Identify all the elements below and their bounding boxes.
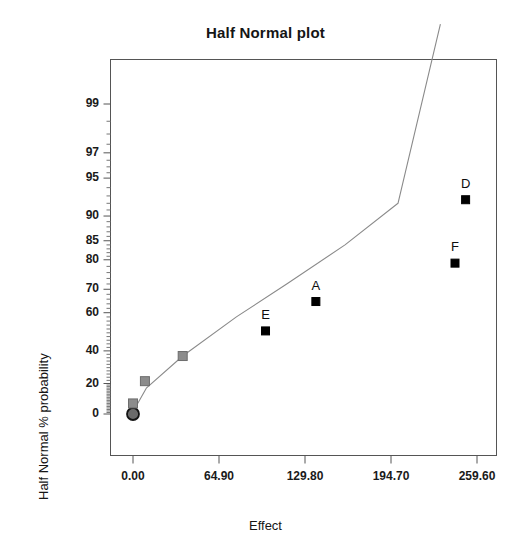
- data-point-label: E: [246, 307, 286, 322]
- axis-frame: [111, 60, 497, 456]
- y-tick-label: 97: [55, 145, 99, 159]
- data-point-square: [178, 352, 187, 361]
- x-tick-label: 259.60: [437, 469, 517, 483]
- x-tick-label: 194.70: [351, 469, 431, 483]
- y-tick-label: 90: [55, 208, 99, 222]
- data-point-label: A: [296, 278, 336, 293]
- data-point-label: F: [435, 239, 475, 254]
- y-tick-label: 95: [55, 170, 99, 184]
- x-tick-label: 129.80: [265, 469, 345, 483]
- y-tick-label: 0: [55, 406, 99, 420]
- y-axis-ticks: [104, 104, 111, 414]
- data-point-label: D: [446, 176, 486, 191]
- data-point-square: [140, 377, 149, 386]
- data-point-square: [462, 196, 470, 204]
- chart-canvas: Half Normal plot Half Normal % probabili…: [0, 0, 531, 560]
- y-tick-label: 85: [55, 233, 99, 247]
- data-point-square: [262, 327, 270, 335]
- data-point-square: [312, 298, 320, 306]
- data-markers: [127, 196, 470, 420]
- data-point-square: [129, 399, 138, 408]
- data-point-square: [451, 259, 459, 267]
- y-tick-label: 20: [55, 376, 99, 390]
- x-tick-label: 64.90: [179, 469, 259, 483]
- y-tick-label: 40: [55, 343, 99, 357]
- x-axis-ticks: [133, 456, 477, 464]
- data-point-circle: [127, 408, 139, 420]
- y-tick-label: 60: [55, 305, 99, 319]
- y-tick-label: 99: [55, 96, 99, 110]
- y-tick-label: 80: [55, 252, 99, 266]
- x-tick-label: 0.00: [93, 469, 173, 483]
- y-tick-label: 70: [55, 281, 99, 295]
